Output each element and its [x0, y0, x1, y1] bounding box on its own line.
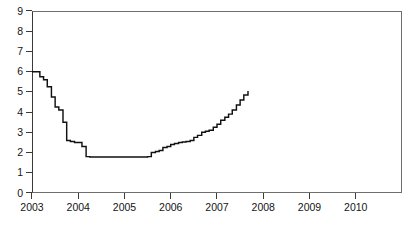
x-axis-tick	[78, 193, 79, 199]
plot-area	[32, 11, 402, 193]
x-axis-tick-label: 2003	[20, 202, 43, 213]
y-axis-tick	[26, 51, 32, 52]
y-axis-tick	[26, 112, 32, 113]
x-axis-tick	[124, 193, 125, 199]
x-axis-tick-label: 2009	[298, 202, 321, 213]
y-axis-tick	[26, 172, 32, 173]
x-axis-tick	[216, 193, 217, 199]
y-axis-tick-label: 9	[0, 6, 23, 17]
chart-container: 0123456789 20032004200520062007200820092…	[0, 0, 418, 233]
y-axis-tick-label: 8	[0, 26, 23, 37]
x-axis-tick-label: 2006	[159, 202, 182, 213]
y-axis-tick-label: 3	[0, 127, 23, 138]
y-axis-tick-label: 5	[0, 86, 23, 97]
x-axis-tick	[170, 193, 171, 199]
x-axis-tick-label: 2007	[205, 202, 228, 213]
y-axis-tick	[26, 132, 32, 133]
x-axis-tick-label: 2005	[113, 202, 136, 213]
x-axis-tick-label: 2004	[67, 202, 90, 213]
x-axis-tick-label: 2008	[252, 202, 275, 213]
y-axis-tick	[26, 152, 32, 153]
y-axis-tick	[26, 71, 32, 72]
x-axis-tick	[355, 193, 356, 199]
y-axis-tick-label: 4	[0, 107, 23, 118]
y-axis-tick-label: 0	[0, 188, 23, 199]
y-axis-tick-label: 1	[0, 167, 23, 178]
x-axis-tick	[263, 193, 264, 199]
y-axis-tick-label: 7	[0, 46, 23, 57]
y-axis-tick-label: 2	[0, 147, 23, 158]
y-axis-tick	[26, 31, 32, 32]
y-axis-tick-label: 6	[0, 66, 23, 77]
x-axis-tick	[31, 193, 32, 199]
y-axis-tick	[26, 10, 32, 11]
x-axis-tick	[309, 193, 310, 199]
x-axis-tick-label: 2010	[344, 202, 367, 213]
y-axis-tick	[26, 91, 32, 92]
